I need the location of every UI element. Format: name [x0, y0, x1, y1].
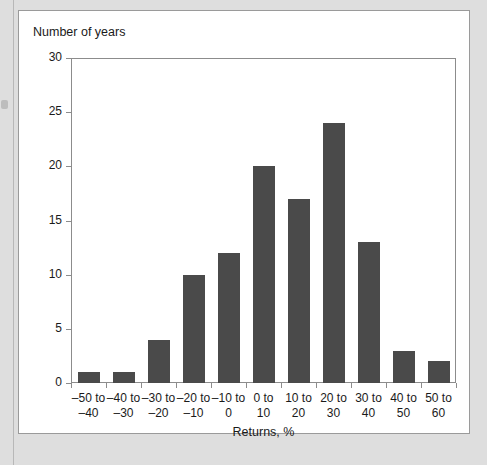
bar — [428, 361, 450, 383]
bar — [218, 253, 240, 383]
x-axis-tick-mark — [456, 383, 457, 388]
x-axis-tick-mark — [211, 383, 212, 388]
x-axis-tick-mark — [106, 383, 107, 388]
x-axis-tick-mark — [421, 383, 422, 388]
bar — [183, 275, 205, 383]
figure-panel: Number of years 051015202530 –50 to–40–4… — [18, 10, 470, 434]
x-axis-tick-mark — [71, 383, 72, 388]
x-axis-tick-label: 50 to60 — [415, 391, 462, 421]
bar-slot — [71, 58, 106, 383]
bar-slot — [421, 58, 456, 383]
bar — [253, 166, 275, 383]
bar — [148, 340, 170, 383]
x-axis-tick-mark — [141, 383, 142, 388]
x-axis-ticks — [71, 383, 457, 389]
y-axis-tick-label: 25 — [49, 104, 62, 118]
y-axis-tick-label: 10 — [49, 267, 62, 281]
bar-slot — [106, 58, 141, 383]
bar — [113, 372, 135, 383]
bars-layer — [71, 58, 456, 383]
bar — [393, 351, 415, 384]
y-axis-tick-label: 5 — [55, 321, 62, 335]
bar-slot — [246, 58, 281, 383]
bar-slot — [211, 58, 246, 383]
y-axis: 051015202530 — [19, 58, 71, 384]
bar-slot — [176, 58, 211, 383]
x-axis-tick-mark — [316, 383, 317, 388]
x-axis-title: Returns, % — [71, 425, 456, 439]
x-axis-tick-mark — [386, 383, 387, 388]
bar-slot — [386, 58, 421, 383]
x-axis-tick-mark — [176, 383, 177, 388]
bar-slot — [141, 58, 176, 383]
x-axis-tick-mark — [246, 383, 247, 388]
y-axis-tick-label: 15 — [49, 213, 62, 227]
bar-slot — [281, 58, 316, 383]
page-edge-line — [13, 0, 14, 465]
bar — [288, 199, 310, 383]
bar — [78, 372, 100, 383]
bar-slot — [351, 58, 386, 383]
page-edge-mark — [1, 100, 8, 109]
y-axis-tick-label: 0 — [55, 375, 62, 389]
y-axis-tick-label: 30 — [49, 50, 62, 64]
x-axis-tick-mark — [351, 383, 352, 388]
y-axis-tick-label: 20 — [49, 158, 62, 172]
x-axis-tick-mark — [281, 383, 282, 388]
chart-title: Number of years — [33, 25, 125, 39]
bar — [323, 123, 345, 383]
bar-slot — [316, 58, 351, 383]
bar — [358, 242, 380, 383]
